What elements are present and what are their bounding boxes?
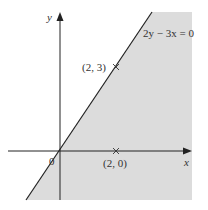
shaded-region [26,12,192,200]
y-axis-label: y [46,11,52,23]
point-label-2-3: (2, 3) [82,61,106,74]
graph: y x 0 2y − 3x = 0 (2, 3) (2, 0) [0,0,208,210]
line-equation-label: 2y − 3x = 0 [143,27,194,39]
x-axis-label: x [183,156,189,168]
point-label-2-0: (2, 0) [103,157,127,170]
y-axis-arrow-icon [57,12,64,21]
origin-label: 0 [49,155,55,167]
